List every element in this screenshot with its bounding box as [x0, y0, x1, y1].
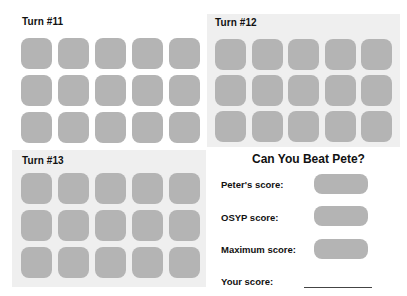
- tile[interactable]: [132, 112, 163, 143]
- tile[interactable]: [58, 210, 89, 241]
- peters-score-label: Peter's score:: [221, 179, 283, 190]
- tile[interactable]: [58, 247, 89, 278]
- tile[interactable]: [132, 38, 163, 69]
- tile[interactable]: [288, 39, 319, 70]
- turn-11-grid: [21, 38, 200, 143]
- tile[interactable]: [215, 39, 246, 70]
- tile[interactable]: [132, 247, 163, 278]
- tile[interactable]: [252, 39, 283, 70]
- tile[interactable]: [169, 112, 200, 143]
- maximum-score-label: Maximum score:: [221, 244, 296, 255]
- tile[interactable]: [21, 38, 52, 69]
- tile[interactable]: [169, 75, 200, 106]
- tile[interactable]: [21, 247, 52, 278]
- tile[interactable]: [21, 210, 52, 241]
- tile[interactable]: [21, 112, 52, 143]
- turn-11-label: Turn #11: [22, 16, 63, 27]
- tile[interactable]: [58, 112, 89, 143]
- your-score-label: Your score:: [221, 276, 273, 287]
- tile[interactable]: [132, 210, 163, 241]
- tile[interactable]: [215, 75, 246, 106]
- your-score-line[interactable]: [304, 287, 372, 288]
- tile[interactable]: [252, 111, 283, 142]
- tile[interactable]: [132, 173, 163, 204]
- tile[interactable]: [215, 111, 246, 142]
- turn-12-label: Turn #12: [215, 17, 257, 28]
- tile[interactable]: [95, 173, 126, 204]
- maximum-score-box: [314, 239, 368, 259]
- tile[interactable]: [58, 38, 89, 69]
- tile[interactable]: [132, 75, 163, 106]
- osyp-score-label: OSYP score:: [221, 212, 278, 223]
- tile[interactable]: [95, 247, 126, 278]
- tile[interactable]: [361, 75, 392, 106]
- tile[interactable]: [288, 75, 319, 106]
- tile[interactable]: [169, 38, 200, 69]
- turn-12-grid: [215, 39, 392, 142]
- tile[interactable]: [21, 75, 52, 106]
- osyp-score-box: [314, 206, 368, 226]
- tile[interactable]: [169, 247, 200, 278]
- tile[interactable]: [361, 111, 392, 142]
- score-title: Can You Beat Pete?: [210, 152, 407, 166]
- tile[interactable]: [252, 75, 283, 106]
- tile[interactable]: [325, 39, 356, 70]
- tile[interactable]: [95, 38, 126, 69]
- turn-13-label: Turn #13: [22, 155, 64, 166]
- peters-score-box: [314, 174, 368, 194]
- tile[interactable]: [169, 173, 200, 204]
- tile[interactable]: [21, 173, 52, 204]
- tile[interactable]: [58, 75, 89, 106]
- tile[interactable]: [95, 75, 126, 106]
- tile[interactable]: [58, 173, 89, 204]
- tile[interactable]: [95, 210, 126, 241]
- turn-13-grid: [21, 173, 200, 278]
- tile[interactable]: [325, 111, 356, 142]
- tile[interactable]: [95, 112, 126, 143]
- tile[interactable]: [169, 210, 200, 241]
- tile[interactable]: [361, 39, 392, 70]
- tile[interactable]: [288, 111, 319, 142]
- tile[interactable]: [325, 75, 356, 106]
